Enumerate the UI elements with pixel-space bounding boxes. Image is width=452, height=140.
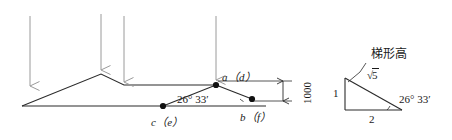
dimension-1000-group <box>218 81 292 101</box>
label-point-c: c（e） <box>151 117 184 128</box>
angle-arc-26-33 <box>240 99 244 102</box>
load-arrow-group <box>30 14 216 86</box>
triangle-hypotenuse <box>345 78 402 110</box>
label-trapezoid-height: 梯形高 <box>371 48 407 60</box>
diagram-canvas <box>0 0 452 140</box>
label-triangle-hypotenuse: √5 <box>367 70 379 81</box>
label-triangle-horizontal-leg: 2 <box>369 114 375 125</box>
label-point-b: b（f） <box>240 112 271 123</box>
main-slope-profile <box>22 14 292 109</box>
wedge-line-a-b <box>216 85 252 99</box>
label-triangle-vertical-leg: 1 <box>333 88 339 99</box>
label-angle-main: 26° 33′ <box>177 94 209 105</box>
label-dimension-1000: 1000 <box>302 82 313 104</box>
label-point-a: a（d） <box>222 72 256 83</box>
triangle-angle-arc <box>387 106 390 110</box>
radicand-value: 5 <box>372 68 379 81</box>
node-point-c <box>160 103 166 109</box>
slope-profile-figure: a（d） b（f） c（e） 26° 33′ 1000 梯形高 1 2 √5 2… <box>0 0 452 140</box>
trapezoid-height-leader-line <box>348 63 366 82</box>
label-triangle-angle: 26° 33′ <box>399 94 431 105</box>
node-point-a <box>213 82 219 88</box>
